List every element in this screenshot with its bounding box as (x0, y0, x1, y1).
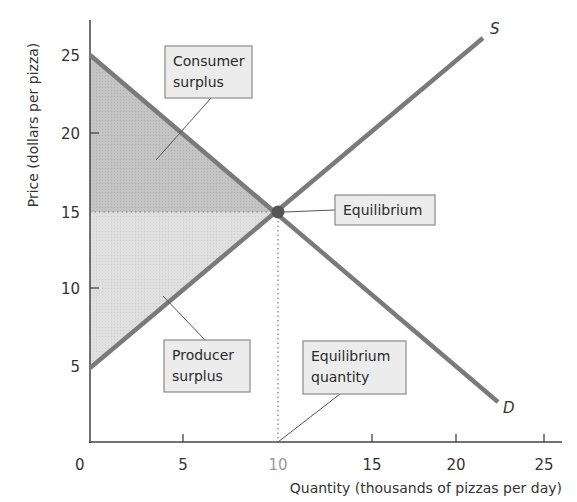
consumer-surplus-callout: Consumer surplus (165, 46, 252, 98)
x-ticks (183, 434, 544, 442)
y-axis-title: Price (dollars per pizza) (25, 43, 41, 208)
equilibrium-label: Equilibrium (343, 202, 422, 218)
consumer-surplus-line2: surplus (173, 74, 224, 90)
consumer-surplus-line1: Consumer (173, 53, 245, 69)
y-tick-label-25: 25 (61, 47, 80, 65)
equilibrium-leader (284, 210, 335, 212)
equilibrium-quantity-line2: quantity (311, 369, 369, 385)
producer-surplus-line2: surplus (172, 368, 223, 384)
x-tick-label-25: 25 (534, 456, 553, 474)
x-tick-label-5: 5 (178, 456, 188, 474)
y-tick-label-5: 5 (70, 358, 80, 376)
y-tick-label-20: 20 (61, 125, 80, 143)
x-tick-label-15: 15 (362, 456, 381, 474)
producer-surplus-line1: Producer (172, 347, 234, 363)
equilibrium-point (272, 206, 285, 219)
supply-demand-chart: Consumer surplus Producer surplus Equili… (0, 0, 577, 502)
supply-label: S (490, 20, 500, 38)
equilibrium-quantity-callout: Equilibrium quantity (303, 341, 406, 394)
x-axis-title: Quantity (thousands of pizzas per day) (290, 480, 562, 496)
producer-surplus-callout: Producer surplus (164, 340, 250, 392)
demand-label: D (503, 399, 515, 417)
equilibrium-callout: Equilibrium (335, 195, 435, 225)
equilibrium-quantity-leader (278, 394, 340, 442)
y-tick-label-15: 15 (61, 204, 80, 222)
equilibrium-quantity-line1: Equilibrium (311, 348, 390, 364)
x-tick-label-20: 20 (446, 456, 465, 474)
producer-surplus-leader (163, 296, 205, 340)
y-tick-label-10: 10 (61, 280, 80, 298)
x-tick-label-0: 0 (75, 456, 85, 474)
x-tick-label-10: 10 (268, 456, 287, 474)
